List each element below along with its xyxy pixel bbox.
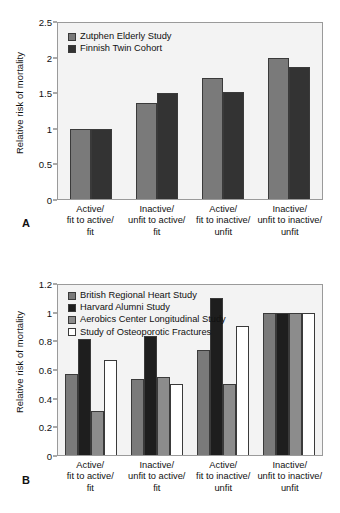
y-axis-tick-mark bbox=[53, 370, 57, 371]
x-axis-category-label: Inactive/unfit to inactive/unfit bbox=[249, 204, 332, 238]
bar bbox=[104, 360, 117, 455]
panel-b-legend: British Regional Heart StudyHarvard Alum… bbox=[68, 290, 226, 338]
bar bbox=[65, 374, 78, 455]
bar bbox=[136, 103, 157, 199]
bar bbox=[236, 326, 249, 455]
bar bbox=[223, 92, 244, 199]
bar bbox=[70, 129, 91, 199]
y-axis-tick-label: 0.4 bbox=[0, 393, 57, 404]
x-axis-category-line: unfit bbox=[249, 483, 332, 494]
bar bbox=[157, 377, 170, 455]
x-axis-category-line: unfit bbox=[249, 227, 332, 238]
x-axis-category-line: unfit to inactive/ bbox=[249, 215, 332, 226]
y-axis-tick-mark bbox=[53, 456, 57, 457]
y-axis-tick-label: 1 bbox=[0, 123, 57, 134]
y-axis-tick-label: 1.2 bbox=[0, 279, 57, 290]
legend-swatch-icon bbox=[68, 33, 76, 41]
legend-item: Study of Osteoporotic Fractures bbox=[68, 327, 226, 338]
y-axis-tick-label: 1 bbox=[0, 307, 57, 318]
bar bbox=[91, 411, 104, 455]
legend-item: Finnish Twin Cohort bbox=[68, 43, 171, 54]
y-axis-tick-mark bbox=[53, 341, 57, 342]
bar bbox=[263, 313, 276, 455]
x-axis-category-line: Inactive/ bbox=[249, 460, 332, 471]
legend-label: British Regional Heart Study bbox=[80, 290, 197, 301]
bar bbox=[170, 384, 183, 455]
panel-b-letter: B bbox=[22, 474, 30, 486]
y-axis-tick-mark bbox=[53, 312, 57, 313]
legend-item: British Regional Heart Study bbox=[68, 290, 226, 301]
panel-a: Relative risk of mortality Zutphen Elder… bbox=[0, 4, 340, 254]
bar bbox=[202, 78, 223, 199]
bar bbox=[289, 313, 302, 455]
legend-label: Study of Osteoporotic Fractures bbox=[80, 327, 211, 338]
legend-swatch-icon bbox=[68, 304, 76, 312]
panel-a-letter: A bbox=[22, 217, 30, 229]
bar-group bbox=[190, 23, 256, 199]
x-axis-category-line: unfit to inactive/ bbox=[249, 471, 332, 482]
bar bbox=[302, 313, 315, 455]
bar bbox=[268, 58, 289, 199]
y-axis-tick-label: 0.5 bbox=[0, 159, 57, 170]
panel-a-plot-area: Zutphen Elderly StudyFinnish Twin Cohort bbox=[57, 22, 323, 200]
bar bbox=[144, 336, 157, 455]
y-axis-tick-mark bbox=[53, 164, 57, 165]
y-axis-tick-label: 2.5 bbox=[0, 17, 57, 28]
bar bbox=[131, 379, 144, 456]
x-axis-category-line: Inactive/ bbox=[249, 204, 332, 215]
figure-caption bbox=[26, 505, 326, 513]
y-axis-tick-mark bbox=[53, 427, 57, 428]
legend-label: Finnish Twin Cohort bbox=[80, 43, 162, 54]
legend-item: Zutphen Elderly Study bbox=[68, 31, 171, 42]
bar-group bbox=[256, 285, 322, 455]
bar bbox=[91, 129, 112, 199]
y-axis-tick-mark bbox=[53, 57, 57, 58]
y-axis-tick-mark bbox=[53, 200, 57, 201]
legend-label: Aerobics Center Longitudinal Study bbox=[80, 314, 226, 325]
legend-swatch-icon bbox=[68, 316, 76, 324]
legend-label: Zutphen Elderly Study bbox=[80, 31, 171, 42]
bar-group bbox=[256, 23, 322, 199]
bar bbox=[157, 93, 178, 199]
panel-b-plot-area: British Regional Heart StudyHarvard Alum… bbox=[57, 284, 323, 456]
y-axis-tick-mark bbox=[53, 22, 57, 23]
legend-item: Aerobics Center Longitudinal Study bbox=[68, 314, 226, 325]
legend-swatch-icon bbox=[68, 45, 76, 53]
y-axis-tick-label: 1.5 bbox=[0, 88, 57, 99]
legend-item: Harvard Alumni Study bbox=[68, 302, 226, 313]
y-axis-tick-label: 0.8 bbox=[0, 336, 57, 347]
bar bbox=[78, 339, 91, 455]
y-axis-tick-label: 2 bbox=[0, 52, 57, 63]
bar bbox=[276, 313, 289, 455]
y-axis-tick-label: 0.2 bbox=[0, 422, 57, 433]
legend-label: Harvard Alumni Study bbox=[80, 302, 170, 313]
bar bbox=[197, 350, 210, 455]
y-axis-tick-mark bbox=[53, 398, 57, 399]
y-axis-tick-label: 0.6 bbox=[0, 365, 57, 376]
y-axis-tick-mark bbox=[53, 93, 57, 94]
legend-swatch-icon bbox=[68, 292, 76, 300]
y-axis-tick-mark bbox=[53, 128, 57, 129]
panel-b: Relative risk of mortality British Regio… bbox=[0, 262, 340, 510]
y-axis-tick-mark bbox=[53, 284, 57, 285]
legend-swatch-icon bbox=[68, 328, 76, 336]
x-axis-category-label: Inactive/unfit to inactive/unfit bbox=[249, 460, 332, 494]
figure-two-panel-bar-charts: Relative risk of mortality Zutphen Elder… bbox=[0, 0, 340, 513]
bar bbox=[289, 67, 310, 199]
panel-a-legend: Zutphen Elderly StudyFinnish Twin Cohort bbox=[68, 31, 171, 54]
bar bbox=[223, 384, 236, 455]
